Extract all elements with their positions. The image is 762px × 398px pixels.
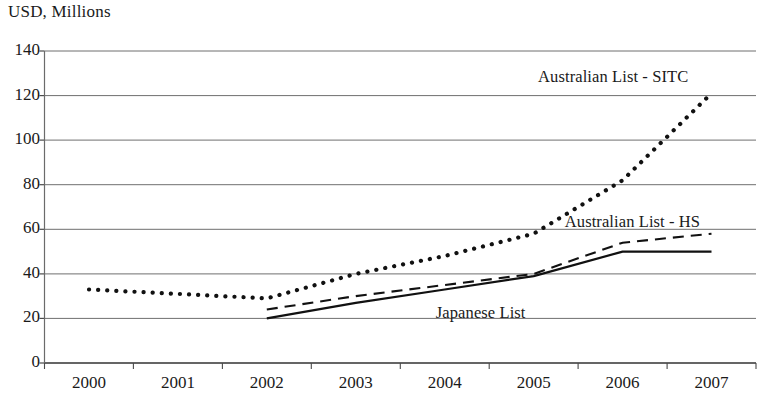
y-axis-tick-label: 0	[0, 352, 40, 372]
x-axis-tick-label: 2000	[54, 373, 124, 393]
chart-plot-area	[0, 0, 762, 398]
x-axis-ticks-group	[45, 363, 757, 369]
series-line-australian-sitc	[89, 93, 712, 298]
x-axis-tick-label: 2003	[321, 373, 391, 393]
series-line-australian-hs	[267, 234, 712, 310]
y-axis-tick-label: 20	[0, 307, 40, 327]
chart-container: USD, Millions 020406080100120140 2000200…	[0, 0, 762, 398]
x-axis-tick-label: 2006	[588, 373, 658, 393]
series-label-australian-hs: Australian List - HS	[565, 212, 700, 232]
y-axis-tick-label: 60	[0, 218, 40, 238]
x-axis-tick-label: 2004	[410, 373, 480, 393]
y-axis-tick-label: 100	[0, 129, 40, 149]
y-axis-tick-label: 140	[0, 40, 40, 60]
y-axis-tick-label: 80	[0, 174, 40, 194]
x-axis-tick-label: 2007	[677, 373, 747, 393]
data-series-group	[89, 93, 712, 318]
series-label-australian-sitc: Australian List - SITC	[538, 67, 688, 87]
y-axis-tick-label: 120	[0, 85, 40, 105]
x-axis-tick-label: 2002	[232, 373, 302, 393]
y-axis-tick-label: 40	[0, 263, 40, 283]
x-axis-tick-label: 2001	[143, 373, 213, 393]
x-axis-tick-label: 2005	[499, 373, 569, 393]
series-label-japanese: Japanese List	[436, 303, 526, 323]
gridlines-group	[40, 51, 757, 363]
